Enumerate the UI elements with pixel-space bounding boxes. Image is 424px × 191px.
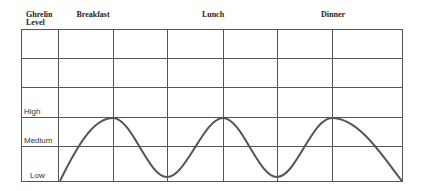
ghrelin-chart: Ghrelin Level Breakfast Lunch Dinner Hig…: [0, 0, 424, 191]
y-axis-title-line2: Level: [26, 18, 45, 27]
meal-label-dinner: Dinner: [321, 10, 345, 19]
y-level-low: Low: [30, 171, 45, 180]
grid: [21, 29, 402, 181]
ghrelin-curve: [60, 118, 402, 181]
y-level-high: High: [24, 107, 40, 116]
y-level-medium: Medium: [24, 136, 53, 145]
meal-label-breakfast: Breakfast: [76, 10, 110, 19]
meal-label-lunch: Lunch: [202, 10, 225, 19]
